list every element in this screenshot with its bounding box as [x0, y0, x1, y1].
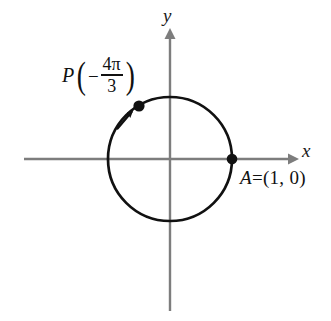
point-P-open-paren: (	[77, 60, 86, 91]
point-A-coords: (1, 0)	[263, 167, 306, 188]
point-P-label: P ( − 4π 3 )	[62, 55, 136, 95]
unit-circle-figure: x y A=(1, 0) P ( − 4π 3 )	[0, 0, 331, 321]
point-P-dot	[133, 100, 144, 111]
pi-symbol: π	[112, 54, 121, 74]
point-P-numerator: 4π	[101, 55, 123, 74]
point-P-numerator-number: 4	[103, 54, 112, 74]
point-A-label: A=(1, 0)	[240, 168, 306, 187]
point-A-dot	[227, 154, 238, 165]
counterclockwise-rotation-arrow	[118, 110, 134, 129]
x-axis-arrowhead	[288, 154, 299, 165]
point-A-name: A	[240, 167, 252, 188]
point-P-name: P	[62, 65, 74, 85]
point-P-close-paren: )	[125, 60, 134, 91]
point-P-minus-sign: −	[88, 67, 99, 86]
point-A-equals: =	[252, 167, 263, 188]
x-axis	[24, 154, 299, 165]
diagram-canvas	[0, 0, 331, 321]
y-axis-arrowhead	[165, 28, 176, 39]
point-P-fraction: 4π 3	[101, 55, 123, 95]
x-axis-label: x	[302, 141, 310, 160]
y-axis-label: y	[163, 6, 171, 25]
point-P-denominator: 3	[105, 76, 118, 95]
y-axis	[165, 28, 176, 311]
